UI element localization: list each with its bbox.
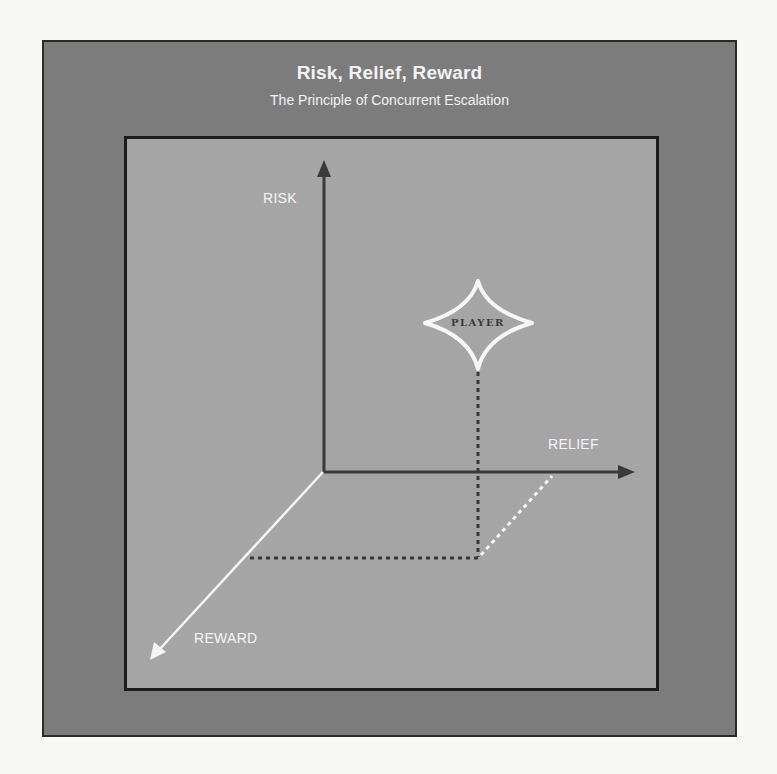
axes-diagram bbox=[0, 0, 777, 774]
relief-arrowhead-icon bbox=[618, 465, 635, 479]
player-label: PLAYER bbox=[438, 317, 518, 328]
risk-axis-label: RISK bbox=[263, 190, 297, 206]
relief-projection-line bbox=[481, 476, 552, 555]
risk-arrowhead-icon bbox=[317, 160, 331, 177]
reward-axis bbox=[158, 472, 323, 651]
relief-axis-label: RELIEF bbox=[548, 436, 599, 452]
reward-axis-label: REWARD bbox=[194, 630, 258, 646]
